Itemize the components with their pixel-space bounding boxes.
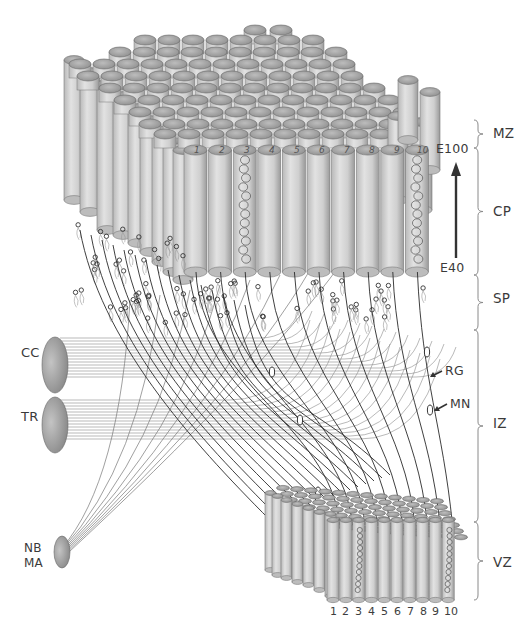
vz-column-number: 9 <box>432 605 439 618</box>
cp-column-number: 5 <box>294 145 300 155</box>
afferent-label-ma: MA <box>24 557 43 569</box>
zone-label-vz: VZ <box>493 556 512 570</box>
vz-column-number: 5 <box>381 605 388 618</box>
vz-column-number: 2 <box>342 605 349 618</box>
diagram-artwork <box>0 0 531 633</box>
afferent-label-nb: NB <box>24 542 42 554</box>
cp-column-number: 6 <box>319 145 325 155</box>
vz-column-number: 4 <box>368 605 375 618</box>
zone-label-mz: MZ <box>493 127 514 141</box>
vz-column-number: 1 <box>330 605 337 618</box>
cp-column-number: 7 <box>344 145 350 155</box>
afferent-sources <box>42 337 70 568</box>
cp-column-number: 8 <box>369 145 375 155</box>
zone-brackets <box>474 120 483 600</box>
time-label-e100: E100 <box>436 143 469 156</box>
annotation-label-mn: MN <box>450 398 471 411</box>
ventricular-zone-columns <box>265 485 468 602</box>
vz-column-number: 3 <box>355 605 362 618</box>
vz-column-number: 10 <box>444 605 458 618</box>
cp-column-number: 10 <box>417 145 428 155</box>
vz-column-number: 6 <box>394 605 401 618</box>
zone-label-cp: CP <box>493 205 511 219</box>
cp-column-number: 1 <box>194 145 200 155</box>
cp-column-number: 9 <box>394 145 400 155</box>
vz-column-number: 7 <box>407 605 414 618</box>
radial-unit-diagram: MZ CP SP IZ VZ E100 E40 CC TR NB MA RG M… <box>0 0 531 633</box>
cp-column-number: 3 <box>244 145 250 155</box>
cortical-plate-columns <box>184 145 428 277</box>
afferent-label-cc: CC <box>21 346 40 359</box>
zone-label-sp: SP <box>493 292 510 306</box>
zone-label-iz: IZ <box>493 417 507 431</box>
annotation-label-rg: RG <box>445 365 464 378</box>
cp-column-number: 2 <box>219 145 225 155</box>
afferent-label-tr: TR <box>21 410 38 423</box>
time-label-e40: E40 <box>440 262 464 275</box>
cp-column-number: 4 <box>269 145 275 155</box>
vz-column-number: 8 <box>420 605 427 618</box>
